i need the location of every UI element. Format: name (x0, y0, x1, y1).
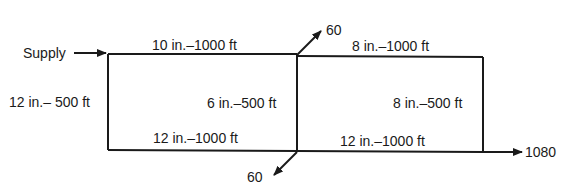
pipe-top-right-label: 8 in.–1000 ft (352, 38, 429, 54)
pipe-top-left-label: 10 in.–1000 ft (152, 37, 237, 53)
pipe-bottom-right-label: 12 in.–1000 ft (340, 133, 425, 149)
pipe-left-label: 12 in.– 500 ft (9, 94, 90, 110)
pipe-bottom-left (108, 150, 297, 151)
pipe-top-right (297, 56, 483, 57)
outflow-arrow-bottom-middle (274, 152, 297, 175)
pipe-middle-label: 6 in.–500 ft (207, 95, 276, 111)
supply-label: Supply (23, 45, 66, 61)
outflow-bottom-right-label: 1080 (525, 144, 556, 160)
outflow-arrow-top-middle (297, 31, 321, 55)
pipe-bottom-right (297, 151, 483, 152)
pipe-bottom-left-label: 12 in.–1000 ft (153, 130, 238, 146)
pipe-right-label: 8 in.–500 ft (393, 95, 462, 111)
outflow-top-middle-label: 60 (326, 22, 342, 38)
outflow-bottom-middle-label: 60 (247, 169, 263, 185)
